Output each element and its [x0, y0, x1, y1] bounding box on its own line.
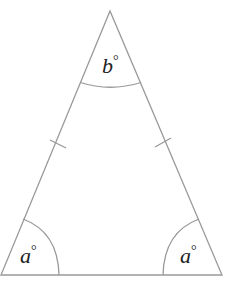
- triangle-diagram: b° a° a°: [0, 0, 236, 284]
- left-side-tick-mark: [50, 140, 66, 148]
- apex-angle-label: b°: [102, 53, 119, 78]
- bottom-right-angle-label: a°: [180, 243, 197, 268]
- apex-angle-arc: [81, 83, 142, 88]
- triangle: [1, 11, 222, 275]
- bottom-left-angle-label: a°: [20, 243, 37, 268]
- right-side-tick-mark: [155, 138, 171, 147]
